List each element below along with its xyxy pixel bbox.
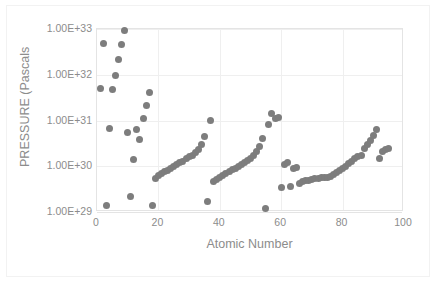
x-axis-tick-label: 100 (394, 217, 412, 228)
data-point (373, 126, 380, 133)
y-axis-tick-label: 1.00E+29 (36, 206, 92, 217)
data-point (109, 86, 116, 93)
plot-area (96, 28, 403, 211)
y-axis-tick-label: 1.00E+30 (36, 160, 92, 171)
y-axis-tick-labels: 1.00E+291.00E+301.00E+311.00E+321.00E+33 (32, 28, 92, 211)
data-point (149, 202, 156, 209)
x-axis-title: Atomic Number (96, 238, 403, 252)
data-point (265, 121, 272, 128)
data-point (259, 135, 266, 142)
data-point (287, 183, 294, 190)
x-axis-tick-label: 60 (274, 217, 286, 228)
data-point (207, 117, 214, 124)
gridline-horizontal (97, 75, 402, 76)
y-axis-title: PRESSURE (Pascals (19, 17, 33, 197)
gridline-vertical (158, 29, 159, 210)
x-axis-tick-label: 80 (336, 217, 348, 228)
data-point (100, 40, 107, 47)
data-point (127, 193, 134, 200)
data-point (97, 85, 104, 92)
gridline-horizontal (97, 29, 402, 30)
data-point (130, 156, 137, 163)
x-axis-tick-label: 0 (93, 217, 99, 228)
data-point (275, 114, 282, 121)
data-point (256, 143, 263, 150)
x-axis-tick-label: 40 (213, 217, 225, 228)
data-point (143, 102, 150, 109)
scatter-chart: 1.00E+291.00E+301.00E+311.00E+321.00E+33… (0, 0, 438, 291)
data-point (376, 155, 383, 162)
data-point (146, 89, 153, 96)
data-point (284, 159, 291, 166)
data-point (385, 145, 392, 152)
x-axis-tick-labels: 020406080100 (96, 217, 403, 233)
data-point (370, 132, 377, 139)
data-point (262, 205, 269, 212)
data-point (121, 27, 128, 34)
gridline-horizontal (97, 166, 402, 167)
data-point (358, 152, 365, 159)
gridline-horizontal (97, 212, 402, 213)
x-axis-tick-label: 20 (152, 217, 164, 228)
data-point (118, 41, 125, 48)
data-point (103, 202, 110, 209)
gridline-vertical (220, 29, 221, 210)
data-point (278, 184, 285, 191)
data-point (204, 198, 211, 205)
data-point (198, 141, 205, 148)
data-point (293, 164, 300, 171)
data-point (201, 133, 208, 140)
data-point (124, 129, 131, 136)
gridline-vertical (343, 29, 344, 210)
y-axis-tick-label: 1.00E+33 (36, 23, 92, 34)
data-point (106, 125, 113, 132)
y-axis-tick-label: 1.00E+31 (36, 115, 92, 126)
y-axis-tick-label: 1.00E+32 (36, 69, 92, 80)
data-point (112, 72, 119, 79)
data-point (136, 136, 143, 143)
data-point (115, 56, 122, 63)
data-point (133, 126, 140, 133)
data-point (140, 115, 147, 122)
